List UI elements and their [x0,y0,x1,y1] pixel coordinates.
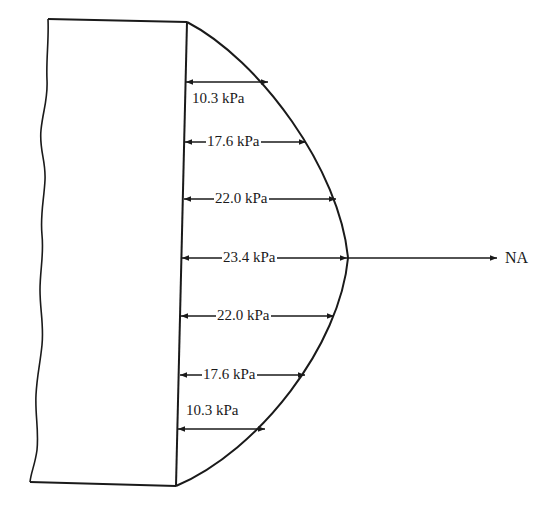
stress-label-top-2: 17.6 kPa [206,134,261,149]
break-line [30,19,48,482]
beam-section [30,19,187,486]
stress-diagram [0,0,554,512]
stress-label-top-3: 22.0 kPa [214,191,269,206]
neutral-axis-label: NA [504,250,529,266]
stress-label-bottom-3: 22.0 kPa [216,308,271,323]
stress-label-bottom-2: 17.6 kPa [202,367,257,382]
stress-label-bottom-1: 10.3 kPa [185,403,240,418]
beam-top-edge [48,19,187,22]
beam-bottom-edge [30,482,176,486]
stress-label-top-1: 10.3 kPa [191,91,246,106]
stress-label-neutral-axis: 23.4 kPa [222,250,277,265]
